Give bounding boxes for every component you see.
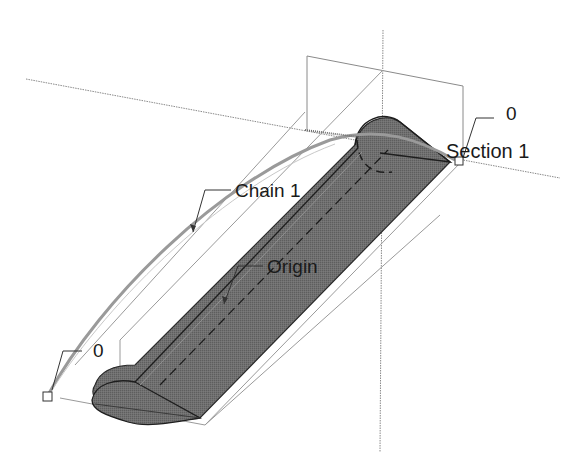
section-label[interactable]: Section 1 — [446, 141, 529, 161]
section-index-label: 0 — [506, 104, 517, 123]
chain-start-point[interactable] — [43, 392, 52, 401]
chain-label[interactable]: Chain 1 — [235, 181, 301, 200]
start-index-label: 0 — [93, 341, 104, 360]
start-index-leader — [52, 351, 82, 390]
chain-leader — [193, 190, 231, 232]
cad-viewport[interactable] — [0, 0, 586, 457]
datum-axis-vertical — [380, 30, 383, 452]
origin-label[interactable]: Origin — [267, 257, 318, 276]
